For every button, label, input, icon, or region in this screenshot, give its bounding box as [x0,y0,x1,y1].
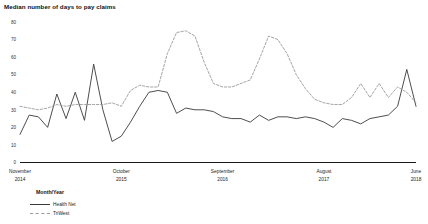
svg-text:August: August [316,169,332,174]
y-tick-label: 0 [13,160,16,165]
x-axis-title: Month/Year [36,189,64,195]
y-tick-label: 30 [11,108,17,113]
y-tick-label: 50 [11,72,17,77]
legend-item-health-net: Health Net [30,202,76,207]
y-tick-label: 40 [11,90,17,95]
x-tick-label: October2015 [113,169,130,182]
series-line-health-net [20,64,416,141]
legend-item-triwest: TriWest [30,211,69,216]
x-tick-label: August2017 [316,169,332,182]
legend-label-triwest: TriWest [53,211,69,216]
y-tick-label: 20 [11,125,17,130]
svg-text:September: September [211,169,235,174]
svg-text:2015: 2015 [116,177,127,182]
x-axis-tick-labels: November2014October2015September2016Augu… [9,169,422,182]
legend-label-health-net: Health Net [53,202,76,207]
y-tick-label: 60 [11,55,17,60]
x-tick-label: September2016 [211,169,235,182]
y-tick-label: 80 [11,20,17,25]
svg-text:2017: 2017 [319,177,330,182]
legend-swatch-dashed-icon [30,213,50,214]
legend-swatch-solid-icon [30,204,50,205]
chart-container: Median number of days to pay claims 0102… [0,0,428,224]
x-tick-label: June2018 [411,169,422,182]
svg-text:October: October [113,169,130,174]
y-tick-label: 70 [11,37,17,42]
series-line-triwest [20,31,416,110]
svg-text:November: November [9,169,32,174]
svg-text:June: June [411,169,422,174]
chart-plot-area: 01020304050607080 November2014October201… [0,0,428,224]
y-tick-label: 10 [11,143,17,148]
y-axis-tick-labels: 01020304050607080 [11,20,17,166]
svg-text:2016: 2016 [217,177,228,182]
x-tick-label: November2014 [9,169,32,182]
svg-text:2014: 2014 [15,177,26,182]
svg-text:2018: 2018 [411,177,422,182]
